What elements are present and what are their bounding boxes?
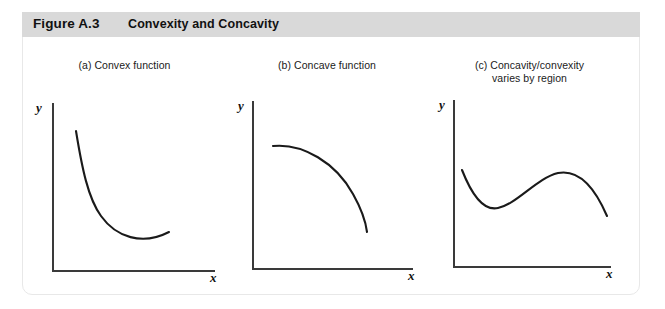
panel-convex-function: (a) Convex function y x [22, 48, 227, 288]
panel-varies-by-region: (c) Concavity/convexity varies by region… [427, 48, 632, 288]
figure-number: Figure A.3 [33, 16, 100, 31]
panel-b-concave-curve [273, 146, 367, 232]
panel-a-plot [22, 48, 227, 288]
figure-header-bar [22, 12, 640, 37]
panel-concave-function: (b) Concave function y x [227, 48, 427, 288]
panel-b-plot [227, 48, 427, 288]
panel-c-y-axis-label: y [439, 97, 445, 113]
figure-title: Convexity and Concavity [128, 17, 279, 31]
panel-c-plot [427, 48, 632, 288]
panel-b-x-axis-label: x [408, 268, 415, 284]
panel-b-y-axis-label: y [238, 98, 244, 114]
panel-a-x-axis-label: x [210, 270, 217, 286]
panel-a-convex-curve [76, 131, 169, 239]
panel-c-x-axis-label: x [606, 266, 613, 282]
panel-c-s-curve [462, 170, 607, 216]
panel-a-y-axis-label: y [36, 100, 42, 116]
